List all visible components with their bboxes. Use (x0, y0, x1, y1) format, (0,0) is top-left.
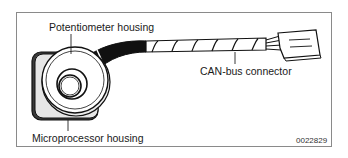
can-bus-connector-label: CAN-bus connector (200, 65, 292, 77)
can-bus-connector-shape (278, 30, 321, 61)
potentiometer-housing-shape (42, 47, 110, 116)
potentiometer-housing-label: Potentiometer housing (49, 21, 154, 33)
figure-number: 0022829 (296, 136, 327, 145)
microprocessor-housing-label: Microprocessor housing (32, 132, 143, 144)
